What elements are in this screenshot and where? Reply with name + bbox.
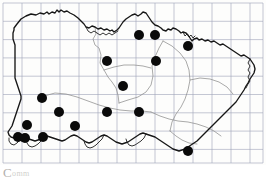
map-data-point <box>134 107 144 117</box>
map-data-point <box>102 56 112 66</box>
caption-rest: omm <box>12 169 30 178</box>
coastline-outline <box>8 10 255 151</box>
caption-initial: C <box>3 166 12 180</box>
map-data-point <box>22 120 32 130</box>
screenshot-root: Comm <box>0 0 266 183</box>
map-data-point <box>150 30 160 40</box>
map-data-point <box>54 107 64 117</box>
map-data-point <box>183 146 193 156</box>
map-data-point <box>37 93 47 103</box>
map-data-point <box>20 133 30 143</box>
coastline-detail <box>9 27 250 148</box>
distribution-map-plate <box>0 0 266 165</box>
map-data-point <box>70 121 80 131</box>
map-data-point <box>134 30 144 40</box>
figure-caption: Comm <box>3 166 123 182</box>
map-data-point <box>38 132 48 142</box>
map-data-point <box>102 107 112 117</box>
map-data-point <box>118 81 128 91</box>
map-data-point <box>183 41 193 51</box>
map-svg <box>0 0 266 165</box>
map-data-point <box>151 56 161 66</box>
